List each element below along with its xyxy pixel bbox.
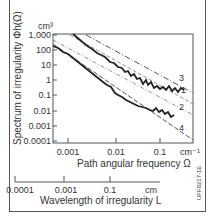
secondary-tick-label: 0.001	[55, 185, 78, 195]
y-axis-labels: 1,000 100 10 1 0.1 0.01 0.001 0.0001	[23, 30, 51, 146]
series-3-line	[86, 35, 193, 93]
secondary-unit-label: cm	[145, 185, 157, 195]
secondary-axis-labels: 0.0001 0.001 0.1	[6, 185, 116, 195]
y-tick-label: 10	[41, 60, 51, 70]
series-1-line	[73, 34, 184, 92]
x-unit-label: cm⁻¹	[180, 147, 200, 157]
curve-label-2: 2	[179, 102, 184, 112]
y-tick-label: 0.001	[28, 121, 51, 131]
x-axis-ticks	[68, 138, 160, 143]
y-tick-label: 100	[36, 45, 51, 55]
curve-label-4: 4	[179, 123, 184, 133]
chart: 1,000 100 10 1 0.1 0.01 0.001 0.0001 cm³…	[0, 0, 208, 217]
y-axis-ticks	[53, 35, 57, 141]
y-tick-label: 0.0001	[23, 136, 51, 146]
y-tick-label: 1	[46, 75, 51, 85]
curve-label-1: 1	[181, 85, 186, 95]
reference-line-aux	[53, 40, 193, 115]
secondary-tick-label: 0.1	[104, 185, 117, 195]
y-tick-label: 1,000	[28, 30, 51, 40]
y-tick-label: 0.1	[38, 90, 51, 100]
figure-code: UFF0217-1E	[196, 166, 202, 200]
y-axis-title: Spectrum of irregularity Φh(Ω)	[12, 11, 23, 145]
secondary-axis	[15, 176, 160, 182]
secondary-axis-title: Wavelength of irregularity L	[40, 195, 162, 206]
curve-label-3: 3	[179, 73, 184, 83]
x-tick-label: 0.001	[57, 147, 80, 157]
x-tick-label: 0.01	[107, 147, 125, 157]
secondary-tick-label: 0.0001	[6, 185, 34, 195]
series-2-line	[53, 46, 174, 117]
y-unit-label: cm³	[38, 21, 53, 31]
plot-area	[53, 34, 193, 143]
curve-labels: 3 1 2 4	[179, 73, 186, 133]
x-tick-label: 0.1	[154, 147, 167, 157]
y-tick-label: 0.01	[33, 106, 51, 116]
x-axis-title: Path angular frequency Ω	[77, 158, 191, 169]
x-axis-labels: 0.001 0.01 0.1	[57, 147, 167, 157]
